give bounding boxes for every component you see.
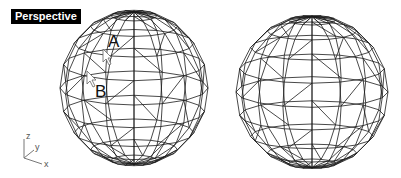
wireframe-scene[interactable]	[0, 0, 401, 178]
axis-x-label: x	[44, 160, 49, 169]
right-sphere-wireframe[interactable]	[236, 16, 388, 169]
cursor-arrow-icon	[103, 49, 112, 65]
viewport-title-tab[interactable]: Perspective	[11, 9, 81, 24]
point-a-label: A	[108, 33, 119, 50]
left-sphere-wireframe[interactable]	[60, 10, 208, 165]
axis-y-label: y	[35, 143, 40, 152]
point-b-label: B	[95, 83, 106, 100]
perspective-viewport[interactable]: Perspective A B z y x	[0, 0, 401, 178]
axis-z-label: z	[26, 132, 31, 141]
